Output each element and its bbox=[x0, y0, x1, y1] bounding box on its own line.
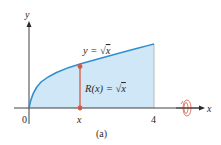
origin-label: 0 bbox=[22, 114, 27, 125]
x-axis-label: x bbox=[206, 103, 212, 114]
x-axis-arrow-icon bbox=[199, 106, 205, 111]
curve-equation-var: x bbox=[105, 45, 111, 56]
y-axis-arrow-icon bbox=[27, 21, 32, 27]
radius-bottom-point bbox=[78, 106, 83, 111]
radius-label-prefix: R(x) = bbox=[84, 83, 115, 95]
x-tick-label-4: 4 bbox=[151, 114, 156, 125]
curve-equation-label: y = √x bbox=[82, 45, 111, 56]
x-tick-label-x: x bbox=[76, 114, 82, 125]
solid-of-revolution-diagram: y x 0 x 4 y = √x R(x) = √x (a) bbox=[0, 0, 221, 145]
y-axis-label: y bbox=[24, 9, 30, 20]
radius-label: R(x) = √x bbox=[84, 83, 126, 95]
radius-top-point bbox=[78, 64, 83, 69]
radius-label-var: x bbox=[120, 83, 126, 94]
figure-caption: (a) bbox=[96, 128, 107, 140]
curve-equation-prefix: y = bbox=[82, 45, 100, 56]
